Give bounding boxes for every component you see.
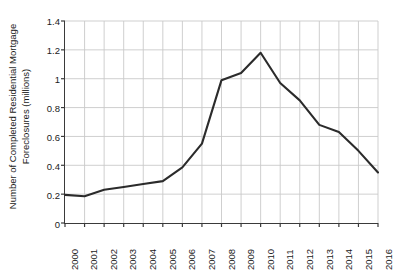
y-axis-title-line-2: Foreclosures (millions) [20, 23, 33, 208]
y-axis-tick-labels: 00.20.40.60.811.21.4 [34, 0, 60, 275]
y-tick-label: 1.2 [47, 45, 60, 56]
data-series-layer [65, 21, 378, 223]
y-tick-label: 0 [55, 219, 60, 230]
y-tick-label: 0.4 [47, 161, 60, 172]
series-line-foreclosures [65, 53, 378, 197]
plot-area [64, 21, 378, 224]
y-tick-label: 0.8 [47, 103, 60, 114]
y-axis-title-line-1: Number of Completed Residential Mortgage [8, 23, 21, 208]
y-tick-label: 0.6 [47, 132, 60, 143]
foreclosures-line-chart: Number of Completed Residential Mortgage… [0, 0, 400, 275]
x-axis-tick-labels: 2000200120022003200420052006200720082009… [64, 224, 378, 275]
y-tick-label: 0.2 [47, 190, 60, 201]
y-tick-label: 1 [55, 74, 60, 85]
y-tick-label: 1.4 [47, 16, 60, 27]
